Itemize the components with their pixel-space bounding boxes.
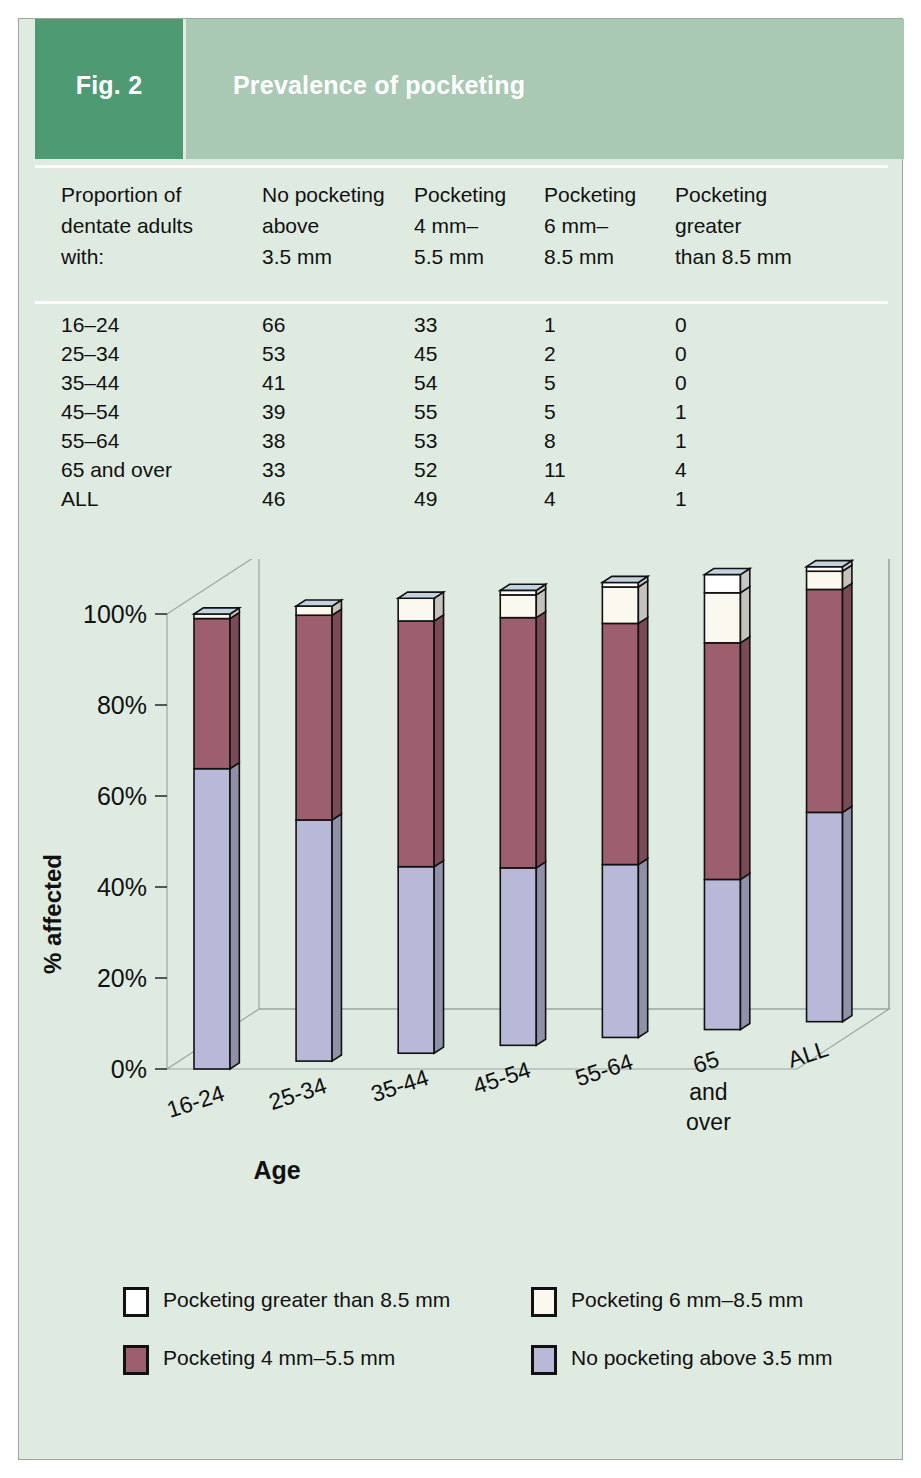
bar-segment xyxy=(398,621,434,867)
bar-top-cap xyxy=(807,561,852,567)
cell-4-55: 55 xyxy=(414,400,437,424)
cell-no-pocketing: 66 xyxy=(262,313,285,337)
cell-no-pocketing: 38 xyxy=(262,429,285,453)
bar-segment-side xyxy=(638,858,647,1037)
bar-segment-side xyxy=(332,609,341,820)
bar-column xyxy=(704,568,749,1029)
bar-segment-side xyxy=(332,814,341,1061)
bars: ALL65andover55-6445-5435-4425-3416-24 xyxy=(164,561,852,1135)
legend-swatch-4-55 xyxy=(123,1345,149,1375)
table-row: 45–54 39 55 5 1 xyxy=(19,400,904,429)
cell-6-85: 4 xyxy=(544,487,556,511)
legend-label: Pocketing greater than 8.5 mm xyxy=(163,1288,450,1312)
bar-segment xyxy=(807,589,843,812)
cell-age: 55–64 xyxy=(61,429,119,453)
bar-segment xyxy=(704,643,740,880)
cell-gt-85: 1 xyxy=(675,487,687,511)
bar-column xyxy=(398,592,443,1053)
bar-segment xyxy=(602,587,638,623)
cell-age: 45–54 xyxy=(61,400,119,424)
table-row: 65 and over 33 52 11 4 xyxy=(19,458,904,487)
figure-number-label: Fig. 2 xyxy=(35,71,183,100)
cell-4-55: 49 xyxy=(414,487,437,511)
x-tick-label: 25-34 xyxy=(266,1072,330,1115)
bar-segment-side xyxy=(536,612,545,868)
bar-segment-side xyxy=(843,806,852,1021)
table-row: 55–64 38 53 8 1 xyxy=(19,429,904,458)
y-tick-label: 100% xyxy=(83,600,147,628)
cell-no-pocketing: 39 xyxy=(262,400,285,424)
legend-label: Pocketing 4 mm–5.5 mm xyxy=(163,1346,395,1370)
x-tick-label: 16-24 xyxy=(164,1080,228,1123)
cell-6-85: 11 xyxy=(544,458,566,482)
cell-age: 25–34 xyxy=(61,342,119,366)
legend-label: No pocketing above 3.5 mm xyxy=(571,1346,832,1370)
bar-segment xyxy=(807,812,843,1021)
bar-top-cap xyxy=(296,600,341,606)
y-tick-label: 80% xyxy=(97,691,147,719)
x-tick-label: and xyxy=(689,1079,727,1105)
cell-gt-85: 1 xyxy=(675,400,687,424)
bar-column xyxy=(296,600,341,1061)
stacked-column-chart: 0%20%40%60%80%100%% affectedALL65andover… xyxy=(19,559,904,1259)
cell-4-55: 33 xyxy=(414,313,437,337)
figure-panel: Fig. 2 Prevalence of pocketing Proportio… xyxy=(18,18,903,1460)
cell-4-55: 54 xyxy=(414,371,437,395)
bar-segment xyxy=(194,619,230,769)
bar-segment xyxy=(704,879,740,1029)
cell-gt-85: 1 xyxy=(675,429,687,453)
y-tick-label: 0% xyxy=(111,1055,147,1083)
y-tick-label: 60% xyxy=(97,782,147,810)
bar-segment-side xyxy=(843,583,852,812)
bar-column xyxy=(194,608,239,1069)
y-tick-label: 20% xyxy=(97,964,147,992)
bar-top-cap xyxy=(500,584,545,590)
cell-gt-85: 0 xyxy=(675,313,687,337)
bar-segment-side xyxy=(230,763,239,1069)
cell-no-pocketing: 53 xyxy=(262,342,285,366)
bar-top-cap xyxy=(704,568,749,574)
cell-6-85: 5 xyxy=(544,371,556,395)
bar-segment-side xyxy=(434,861,443,1054)
y-tick-label: 40% xyxy=(97,873,147,901)
cell-6-85: 1 xyxy=(544,313,556,337)
bar-segment-side xyxy=(536,862,545,1046)
cell-age: ALL xyxy=(61,487,98,511)
bar-top-cap xyxy=(398,592,443,598)
table-row: 16–24 66 33 1 0 xyxy=(19,313,904,342)
bar-top-cap xyxy=(602,576,647,582)
chart-legend: Pocketing greater than 8.5 mm Pocketing … xyxy=(19,1274,904,1404)
bar-segment xyxy=(500,618,536,868)
bar-column xyxy=(807,561,852,1022)
bar-segment xyxy=(704,575,740,593)
cell-gt-85: 4 xyxy=(675,458,687,482)
bar-segment-side xyxy=(740,873,749,1029)
table-row: ALL 46 49 4 1 xyxy=(19,487,904,516)
chart-canvas: 0%20%40%60%80%100%% affectedALL65andover… xyxy=(19,559,904,1259)
cell-6-85: 5 xyxy=(544,400,556,424)
figure-title: Prevalence of pocketing xyxy=(233,71,525,100)
table-row: 35–44 41 54 5 0 xyxy=(19,371,904,400)
bar-segment xyxy=(602,623,638,864)
cell-6-85: 2 xyxy=(544,342,556,366)
legend-label: Pocketing 6 mm–8.5 mm xyxy=(571,1288,803,1312)
x-tick-label: 65 xyxy=(690,1046,722,1079)
x-tick-label: ALL xyxy=(785,1035,832,1072)
table-rule-top xyxy=(35,165,888,168)
figure-number-block: Fig. 2 xyxy=(35,19,183,159)
cell-no-pocketing: 46 xyxy=(262,487,285,511)
bar-segment xyxy=(296,606,332,615)
bar-segment-side xyxy=(230,612,239,768)
bar-segment xyxy=(296,820,332,1061)
cell-age: 65 and over xyxy=(61,458,172,482)
cell-4-55: 52 xyxy=(414,458,437,482)
cell-4-55: 53 xyxy=(414,429,437,453)
cell-6-85: 8 xyxy=(544,429,556,453)
x-tick-label: 55-64 xyxy=(572,1048,636,1091)
bar-segment xyxy=(296,615,332,820)
cell-no-pocketing: 33 xyxy=(262,458,285,482)
table-rule-header xyxy=(35,301,888,304)
cell-no-pocketing: 41 xyxy=(262,371,285,395)
bar-segment-side xyxy=(740,637,749,880)
legend-swatch-gt-85 xyxy=(123,1287,149,1317)
